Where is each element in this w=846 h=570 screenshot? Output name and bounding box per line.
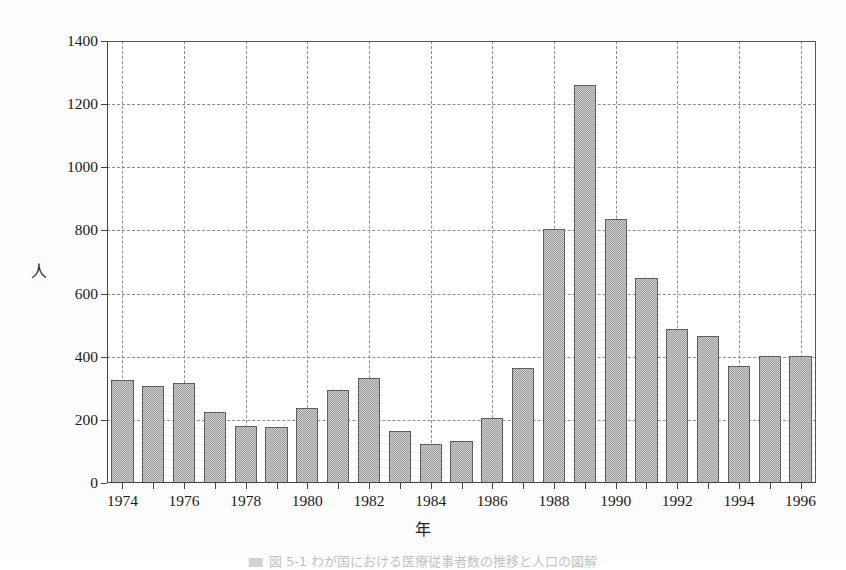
x-axis-tick-label: 1988 xyxy=(538,492,569,510)
bar xyxy=(789,356,811,483)
axis-line-bottom xyxy=(107,482,816,483)
x-axis-tick xyxy=(708,483,709,489)
x-axis-tick xyxy=(184,483,185,489)
x-axis-tick-label: 1986 xyxy=(477,492,508,510)
bar xyxy=(728,366,750,483)
y-axis-tick-label: 600 xyxy=(75,285,98,303)
x-axis-tick-label: 1984 xyxy=(415,492,446,510)
bar xyxy=(204,412,226,483)
y-axis-tick-label: 0 xyxy=(90,474,98,492)
x-axis-tick xyxy=(277,483,278,489)
y-axis-tick-label: 1000 xyxy=(67,158,98,176)
x-axis-tick xyxy=(554,483,555,489)
x-axis-tick xyxy=(616,483,617,489)
bar xyxy=(759,356,781,483)
bar xyxy=(327,390,349,483)
bar xyxy=(358,378,380,483)
plot-frame-right xyxy=(815,41,816,483)
bar xyxy=(605,219,627,483)
bar xyxy=(265,427,287,483)
x-axis-tick-label: 1992 xyxy=(662,492,693,510)
bar xyxy=(111,380,133,483)
x-axis-tick xyxy=(801,483,802,489)
caption-legend-swatch xyxy=(249,558,263,567)
x-axis-tick xyxy=(523,483,524,489)
bar xyxy=(235,426,257,483)
x-axis-title: 年 xyxy=(415,516,431,540)
x-axis-tick-label: 1978 xyxy=(230,492,261,510)
bar xyxy=(296,408,318,483)
y-axis-tick-label: 1200 xyxy=(67,95,98,113)
x-axis-tick xyxy=(307,483,308,489)
y-axis-tick-label: 400 xyxy=(75,348,98,366)
axis-line-left xyxy=(107,41,108,483)
x-axis-tick xyxy=(122,483,123,489)
gridline-horizontal xyxy=(107,294,816,295)
x-axis-tick xyxy=(492,483,493,489)
x-axis-tick-label: 1974 xyxy=(107,492,138,510)
x-axis-tick-label: 1994 xyxy=(723,492,754,510)
bar xyxy=(574,85,596,483)
gridline-vertical xyxy=(246,41,247,483)
bar xyxy=(450,441,472,483)
x-axis-tick xyxy=(153,483,154,489)
bar xyxy=(420,444,442,483)
x-axis-tick xyxy=(215,483,216,489)
gridline-horizontal xyxy=(107,230,816,231)
x-axis-tick xyxy=(246,483,247,489)
bar xyxy=(389,431,411,483)
bar xyxy=(666,329,688,483)
x-axis-tick xyxy=(369,483,370,489)
bar xyxy=(697,336,719,483)
plot-area xyxy=(107,41,816,483)
bar xyxy=(635,278,657,483)
x-axis-tick xyxy=(400,483,401,489)
gridline-horizontal xyxy=(107,167,816,168)
x-axis-tick-label: 1996 xyxy=(785,492,816,510)
plot-frame-top xyxy=(107,41,816,42)
bar xyxy=(512,368,534,483)
y-axis-tick-label: 800 xyxy=(75,221,98,239)
x-axis-tick-label: 1982 xyxy=(354,492,385,510)
x-axis-tick-label: 1976 xyxy=(169,492,200,510)
y-axis-tick-label: 1400 xyxy=(67,32,98,50)
bar xyxy=(173,383,195,483)
x-axis-tick xyxy=(338,483,339,489)
x-axis-tick xyxy=(646,483,647,489)
gridline-vertical xyxy=(492,41,493,483)
figure-caption: 図 5-1 わが国における医療従事者数の推移と人口の図解 xyxy=(249,551,598,570)
caption-text: 図 5-1 わが国における医療従事者数の推移と人口の図解 xyxy=(269,554,598,569)
x-axis-tick-label: 1980 xyxy=(292,492,323,510)
x-axis-tick xyxy=(431,483,432,489)
bar xyxy=(142,386,164,483)
x-axis-tick xyxy=(770,483,771,489)
y-axis-tick-label: 200 xyxy=(75,411,98,429)
bar xyxy=(543,229,565,483)
y-axis-tick xyxy=(101,483,107,484)
gridline-horizontal xyxy=(107,104,816,105)
x-axis-tick xyxy=(739,483,740,489)
x-axis-tick-label: 1990 xyxy=(600,492,631,510)
y-axis-title: 人 xyxy=(31,258,47,282)
x-axis-tick xyxy=(585,483,586,489)
gridline-vertical xyxy=(431,41,432,483)
x-axis-tick xyxy=(462,483,463,489)
bar xyxy=(481,418,503,483)
x-axis-tick xyxy=(677,483,678,489)
